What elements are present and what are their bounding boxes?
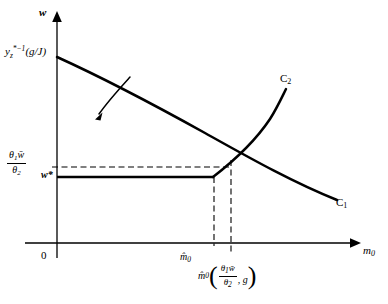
x-axis-label-base: m <box>363 244 371 256</box>
m0hat-fn-open-paren: ( <box>209 267 218 286</box>
x-tick-m0hat-sub: 0 <box>187 255 191 264</box>
curve-c2 <box>213 89 286 177</box>
theta-num-wbar: w̄ <box>17 149 24 160</box>
x-axis-label-sub: 0 <box>371 249 375 258</box>
theta-fraction-denominator: θ2 <box>7 164 26 177</box>
m0hat-fn-num-wbar: w̄ <box>229 263 235 273</box>
m0hat-fn-frac-denominator: θ2 <box>219 277 237 289</box>
x-tick-m0hat-function-label: m̂0(θ1w̄θ2, g) <box>198 264 257 288</box>
y-axis <box>52 11 62 258</box>
m0hat-fn-fraction: θ1w̄θ2 <box>219 264 237 288</box>
y-intercept-arg: (g/J) <box>25 45 46 57</box>
m0hat-fn-close-paren: ) <box>248 267 257 286</box>
y-axis-arrowhead <box>52 11 62 22</box>
theta-fraction-label: θ1w̄ θ2 <box>7 150 26 177</box>
m0hat-fn-den-sub: 2 <box>228 280 232 289</box>
m0hat-fn-frac-numerator: θ1w̄ <box>219 264 237 277</box>
x-axis-arrowhead <box>350 238 361 248</box>
m0hat-fn-comma-g: , g <box>238 275 248 288</box>
x-tick-m0hat-label: m̂0 <box>180 252 191 264</box>
economics-diagram: w m0 0 yz*−1(g/J) θ1w̄ θ2 w* C2 C1 m̂0 m… <box>0 0 388 304</box>
curve-c2-label: C2 <box>280 73 291 86</box>
theta-den-sub: 2 <box>17 169 21 177</box>
y-axis-label: w <box>39 7 46 18</box>
diagram-canvas <box>0 0 388 304</box>
theta-fraction-numerator: θ1w̄ <box>7 150 26 164</box>
x-axis-label: m0 <box>363 245 375 258</box>
curve-c2-sub: 2 <box>287 77 291 86</box>
curve-c1-sub: 1 <box>343 201 347 210</box>
y-intercept-sup: *−1 <box>13 44 26 53</box>
m0hat-fn-base: m̂ <box>198 271 205 281</box>
y-intercept-label: yz*−1(g/J) <box>5 45 46 60</box>
curve-c1 <box>57 57 337 200</box>
curve-c1-label: C1 <box>336 197 347 210</box>
w-star-label: w* <box>41 170 53 180</box>
x-axis <box>25 238 361 248</box>
origin-label: 0 <box>41 250 47 261</box>
